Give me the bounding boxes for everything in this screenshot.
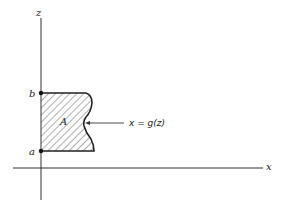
point-a — [39, 149, 43, 153]
diagram-canvas: z x A b a x = g(z) — [0, 0, 281, 206]
z-axis-label: z — [35, 7, 42, 18]
region-label: A — [59, 116, 67, 127]
x-axis-label: x — [266, 161, 272, 172]
point-a-label: a — [29, 146, 35, 157]
boundary-arrow — [85, 121, 124, 125]
boundary-label: x = g(z) — [128, 118, 165, 128]
point-b — [39, 91, 43, 95]
region-a — [41, 93, 101, 151]
point-b-label: b — [29, 88, 35, 99]
